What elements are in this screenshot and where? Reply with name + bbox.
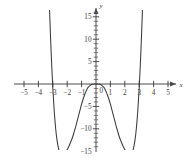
x-tick-label-3: 3: [137, 89, 141, 97]
y-tick-label--10: −10: [80, 125, 92, 133]
y-tick-label-15: 15: [84, 13, 92, 21]
x-axis-tick-labels: −5−4−3−2−112345: [20, 89, 170, 97]
x-tick-label--1: −1: [78, 89, 86, 97]
x-tick-label--3: −3: [49, 89, 57, 97]
x-tick-label-4: 4: [152, 89, 156, 97]
y-axis-name-label: y: [99, 2, 104, 10]
x-tick-label-1: 1: [109, 89, 113, 97]
y-tick-label--15: −15: [80, 148, 92, 156]
axis-group: [14, 8, 176, 152]
x-tick-label-5: 5: [166, 89, 170, 97]
y-axis-arrow-icon: [94, 8, 99, 14]
x-axis-name-label: x: [178, 81, 183, 89]
y-tick-label-5: 5: [88, 58, 92, 66]
plot-canvas: −5−4−3−2−112345 15105−5−10−15 0 x y: [0, 0, 192, 158]
x-tick-label--5: −5: [20, 89, 28, 97]
x-tick-label--2: −2: [63, 89, 71, 97]
x-tick-label--4: −4: [35, 89, 43, 97]
y-tick-label--5: −5: [84, 103, 92, 111]
graph-figure: −5−4−3−2−112345 15105−5−10−15 0 x y: [0, 0, 192, 158]
origin-label: 0: [100, 87, 104, 95]
x-axis-arrow-icon: [170, 82, 176, 87]
x-tick-label-2: 2: [123, 89, 127, 97]
y-tick-label-10: 10: [84, 36, 92, 44]
